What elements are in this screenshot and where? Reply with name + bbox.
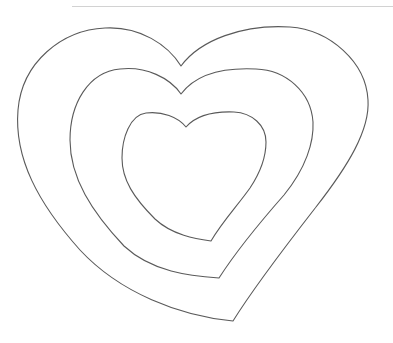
canvas-background bbox=[0, 0, 393, 343]
page-canvas bbox=[0, 0, 393, 343]
nested-hearts-figure bbox=[0, 0, 393, 343]
